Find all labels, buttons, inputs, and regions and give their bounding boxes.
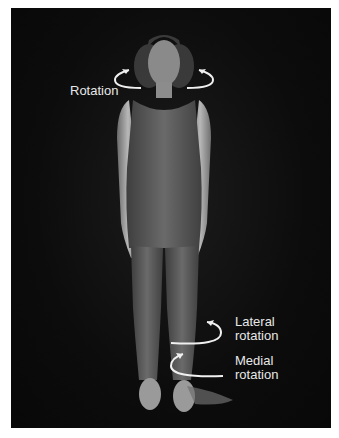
medial-line2: rotation [235,368,278,382]
left-leg [131,246,163,380]
medial-line1: Medial [235,354,278,368]
neck [156,82,172,98]
head [148,40,180,86]
medial-rotation-label: Medial rotation [235,354,278,382]
lateral-rotation-label: Lateral rotation [235,315,278,343]
anatomy-photo: Rotation Lateral rotation Medial rotatio… [11,8,331,428]
lateral-line2: rotation [235,329,278,343]
lateral-line1: Lateral [235,315,278,329]
figure-silhouette [11,8,331,428]
right-leg [165,246,199,380]
torso [126,100,201,248]
left-foot [139,378,161,410]
rotation-label: Rotation [70,84,118,98]
